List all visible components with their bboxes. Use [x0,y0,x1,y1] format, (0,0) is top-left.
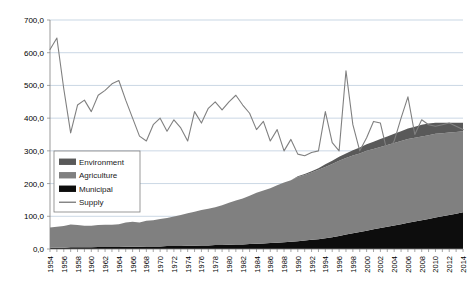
x-tick-label: 1964 [115,256,124,273]
x-tick-label: 1994 [321,256,330,273]
x-axis-tick-labels: 1954195619581960196219641966196819701972… [46,256,468,273]
legend-label: Municipal [79,185,113,194]
x-tick-label: 1958 [74,256,83,273]
y-tick-label: 600,0 [24,49,45,58]
x-tick-label: 1980 [225,256,234,273]
x-tick-label: 1972 [170,256,179,273]
x-tick-label: 1962 [101,256,110,273]
x-tick-label: 1998 [349,256,358,273]
x-tick-label: 1956 [60,256,69,273]
x-tick-label: 1966 [129,256,138,273]
legend-swatch [59,159,76,165]
legend-label: Agriculture [79,171,118,180]
x-tick-label: 1954 [46,256,55,273]
y-tick-label: 200,0 [24,180,45,189]
x-tick-label: 1984 [253,256,262,273]
x-tick-label: 2006 [404,256,413,273]
x-tick-label: 2014 [459,256,468,273]
x-tick-label: 1992 [308,256,317,273]
x-tick-label: 1996 [335,256,344,273]
x-tick-label: 1982 [239,256,248,273]
y-tick-label: 100,0 [24,212,45,221]
x-tick-label: 1970 [156,256,165,273]
x-tick-label: 1978 [211,256,220,273]
legend-label: Supply [79,198,103,207]
stacked-area-chart: 0,0100,0200,0300,0400,0500,0600,0700,0 1… [0,0,476,288]
y-tick-label: 300,0 [24,147,45,156]
x-tick-label: 2008 [418,256,427,273]
x-tick-label: 1968 [142,256,151,273]
x-tick-label: 1974 [184,256,193,273]
x-tick-label: 2012 [445,256,454,273]
legend-swatch [59,186,76,192]
x-tick-label: 1990 [294,256,303,273]
x-tick-label: 2004 [390,256,399,273]
y-tick-label: 0,0 [33,245,45,254]
x-tick-label: 1976 [197,256,206,273]
x-tick-label: 2002 [376,256,385,273]
y-tick-label: 500,0 [24,81,45,90]
x-axis-ticks [50,249,463,252]
x-tick-label: 1988 [280,256,289,273]
x-tick-label: 1986 [266,256,275,273]
y-tick-label: 700,0 [24,16,45,25]
legend-swatch [59,172,76,178]
chart-legend: EnvironmentAgricultureMunicipalSupply [54,151,140,212]
x-tick-label: 2000 [363,256,372,273]
x-tick-label: 2010 [431,256,440,273]
y-tick-label: 400,0 [24,114,45,123]
legend-label: Environment [79,158,125,167]
x-tick-label: 1960 [87,256,96,273]
chart-container: 0,0100,0200,0300,0400,0500,0600,0700,0 1… [0,0,476,288]
